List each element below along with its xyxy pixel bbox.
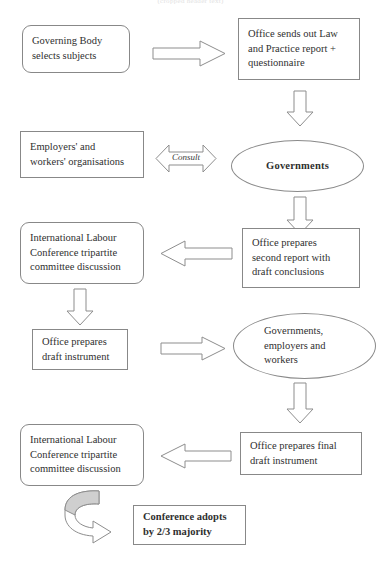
arrow-down-stakeholders-to-final-draft bbox=[286, 382, 314, 424]
arrow-right-draft-instrument-to-stakeholders bbox=[160, 336, 226, 361]
node-ilc-committee-1: International Labour Conference triparti… bbox=[20, 222, 144, 284]
flowchart-canvas: (cropped header text) Governing Body sel… bbox=[0, 0, 381, 571]
node-governments-employers-workers-line3: workers bbox=[264, 353, 375, 368]
node-employers-workers-line2: workers' organisations bbox=[30, 155, 134, 170]
node-office-law-practice-line2: and Practice report + bbox=[248, 42, 350, 57]
arrow-down-committee-to-draft-instrument bbox=[66, 288, 94, 326]
node-ilc-committee-1-line3: committee discussion bbox=[30, 260, 134, 275]
node-office-second-report-line3: draft conclusions bbox=[252, 265, 350, 280]
node-governments-line1: Governments bbox=[266, 159, 329, 174]
node-ilc-committee-2-line2: Conference tripartite bbox=[30, 448, 134, 463]
arrow-left-second-report-to-committee bbox=[160, 240, 233, 267]
node-ilc-committee-2: International Labour Conference triparti… bbox=[20, 424, 144, 486]
node-governments-employers-workers-line2: employers and bbox=[264, 339, 375, 354]
node-office-final-draft-line1: Office prepares final bbox=[250, 439, 352, 454]
arrow-left-final-draft-to-committee bbox=[160, 443, 232, 469]
node-governing-body: Governing Body selects subjects bbox=[22, 25, 130, 73]
node-governing-body-line1: Governing Body bbox=[32, 34, 120, 49]
node-ilc-committee-1-line2: Conference tripartite bbox=[30, 246, 134, 261]
node-office-draft-instrument-line2: draft instrument bbox=[42, 350, 118, 365]
node-office-final-draft: Office prepares final draft instrument bbox=[240, 432, 362, 475]
node-governments-employers-workers: Governments, employers and workers bbox=[233, 313, 376, 379]
node-conference-adopts-line1: Conference adopts bbox=[143, 510, 236, 525]
node-governing-body-line2: selects subjects bbox=[32, 49, 120, 64]
node-office-second-report-line2: second report with bbox=[252, 251, 350, 266]
node-office-second-report: Office prepares second report with draft… bbox=[242, 228, 360, 288]
node-office-draft-instrument: Office prepares draft instrument bbox=[32, 329, 128, 370]
node-office-law-practice-line3: questionnaire bbox=[248, 56, 350, 71]
node-conference-adopts: Conference adopts by 2/3 majority bbox=[133, 505, 246, 545]
node-governments-employers-workers-line1: Governments, bbox=[264, 324, 375, 339]
node-ilc-committee-1-line1: International Labour bbox=[30, 231, 134, 246]
arrow-right-governing-body-to-office bbox=[152, 40, 226, 67]
node-office-draft-instrument-line1: Office prepares bbox=[42, 335, 118, 350]
node-conference-adopts-line2: by 2/3 majority bbox=[143, 525, 236, 540]
node-office-final-draft-line2: draft instrument bbox=[250, 454, 352, 469]
node-office-second-report-line1: Office prepares bbox=[252, 236, 350, 251]
node-governments: Governments bbox=[231, 140, 364, 192]
node-employers-workers-line1: Employers' and bbox=[30, 140, 134, 155]
node-office-law-practice: Office sends out Law and Practice report… bbox=[238, 18, 360, 80]
node-employers-workers: Employers' and workers' organisations bbox=[20, 131, 144, 178]
node-office-law-practice-line1: Office sends out Law bbox=[248, 27, 350, 42]
cropped-header-fragment: (cropped header text) bbox=[0, 0, 381, 4]
node-ilc-committee-2-line3: committee discussion bbox=[30, 462, 134, 477]
arrow-down-office-to-governments bbox=[286, 90, 314, 127]
arrow-curved-loop-to-conference-adopts bbox=[53, 488, 119, 546]
arrow-label-consult: Consult bbox=[155, 152, 217, 162]
node-ilc-committee-2-line1: International Labour bbox=[30, 433, 134, 448]
